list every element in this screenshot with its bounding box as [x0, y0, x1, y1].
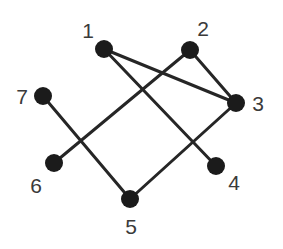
node-label-2: 2 [197, 18, 209, 39]
node-2 [181, 41, 199, 59]
node-7 [34, 87, 52, 105]
node-label-1: 1 [82, 20, 94, 41]
node-label-3: 3 [252, 93, 264, 114]
node-label-7: 7 [16, 86, 28, 107]
graph-canvas [0, 0, 283, 249]
graph-diagram: 1234567 [0, 0, 283, 249]
edge-3-5 [130, 103, 236, 199]
node-3 [227, 94, 245, 112]
node-1 [95, 40, 113, 58]
node-label-6: 6 [30, 175, 42, 196]
node-label-5: 5 [125, 216, 137, 237]
node-4 [207, 157, 225, 175]
node-label-4: 4 [228, 172, 240, 193]
node-5 [121, 190, 139, 208]
edge-1-3 [104, 49, 236, 103]
edges-layer [43, 49, 236, 199]
node-6 [45, 154, 63, 172]
